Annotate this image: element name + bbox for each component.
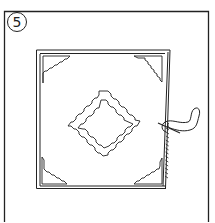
corner-triangle-top-left — [43, 56, 70, 83]
fabric-square — [37, 50, 171, 189]
corner-triangle-bottom-left — [42, 157, 67, 184]
needle-and-thread — [158, 108, 200, 133]
step-number: 5 — [13, 14, 22, 30]
step-badge: 5 — [8, 13, 27, 32]
fabric-square-outline — [37, 50, 171, 189]
folded-right-edge — [163, 50, 170, 188]
diamond-outer — [68, 91, 140, 156]
corner-triangle-bottom-right — [134, 158, 162, 184]
step-diagram: 5 — [0, 0, 215, 222]
outer-frame — [5, 12, 209, 223]
needle-icon — [158, 123, 180, 133]
corner-triangle-top-right — [134, 56, 162, 82]
